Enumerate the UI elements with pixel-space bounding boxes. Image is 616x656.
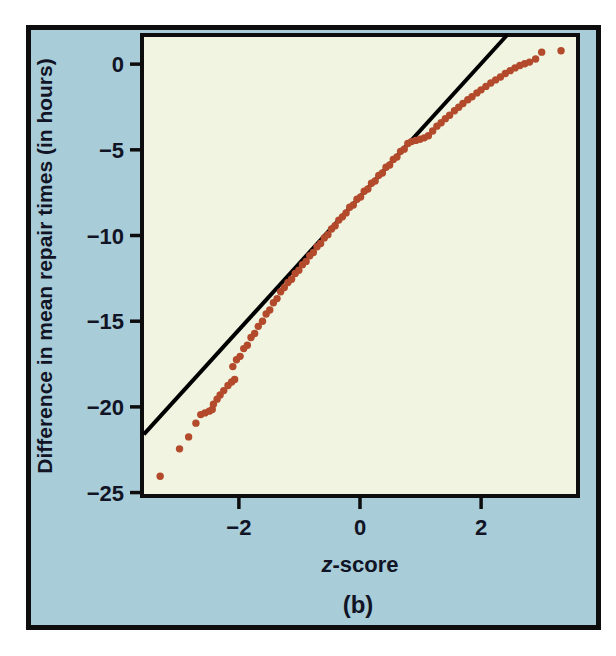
x-tick-label: −2: [226, 515, 251, 540]
data-point: [532, 55, 539, 62]
x-axis-label-rest: -score: [332, 552, 398, 577]
data-point: [236, 353, 243, 360]
x-axis-label-italic-part: z: [320, 552, 332, 577]
normal-probability-plot-figure: −2020−5−10−15−20−25 Difference in mean r…: [0, 0, 616, 656]
y-axis-label: Difference in mean repair times (in hour…: [33, 58, 56, 473]
data-point: [266, 306, 273, 313]
plot-area: [142, 35, 578, 496]
y-tick-label: 0: [112, 52, 124, 77]
y-tick-label: −10: [87, 224, 124, 249]
data-point: [185, 433, 192, 440]
figure-caption: (b): [343, 591, 374, 618]
data-point: [538, 48, 545, 55]
data-point: [176, 445, 183, 452]
y-tick-label: −5: [99, 138, 124, 163]
data-point: [557, 47, 564, 54]
x-axis-label: z-score: [320, 552, 398, 577]
y-tick-label: −25: [87, 481, 124, 506]
data-point: [231, 376, 238, 383]
data-point: [244, 341, 251, 348]
x-tick-label: 2: [475, 515, 487, 540]
data-point: [229, 363, 236, 370]
y-tick-label: −20: [87, 395, 124, 420]
x-tick-label: 0: [354, 515, 366, 540]
data-point: [259, 317, 266, 324]
data-point: [156, 473, 163, 480]
y-tick-label: −15: [87, 309, 124, 334]
data-point: [192, 419, 199, 426]
data-point: [251, 330, 258, 337]
data-point: [273, 295, 280, 302]
